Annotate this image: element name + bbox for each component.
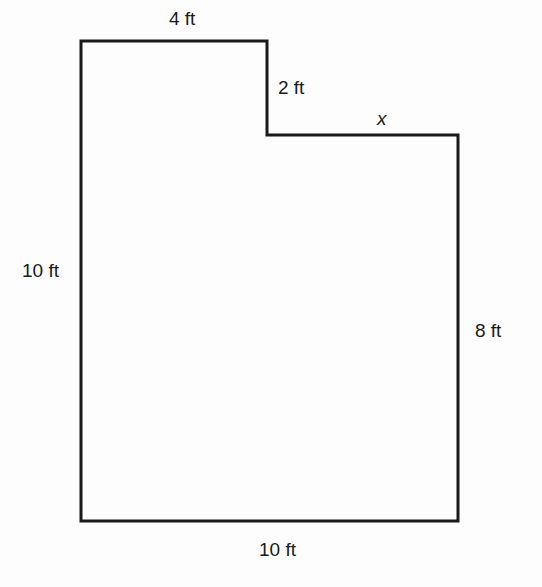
figure-canvas: 4 ft 2 ft x 10 ft 8 ft 10 ft: [0, 0, 542, 587]
top-side-label: 4 ft: [169, 9, 195, 28]
l-shape-outline: [81, 41, 458, 521]
right-side-label: 8 ft: [475, 321, 501, 340]
left-side-label: 10 ft: [22, 261, 59, 280]
unknown-side-label: x: [377, 109, 387, 128]
step-side-label: 2 ft: [278, 78, 304, 97]
bottom-side-label: 10 ft: [259, 540, 296, 559]
l-shape-figure: [0, 0, 542, 587]
